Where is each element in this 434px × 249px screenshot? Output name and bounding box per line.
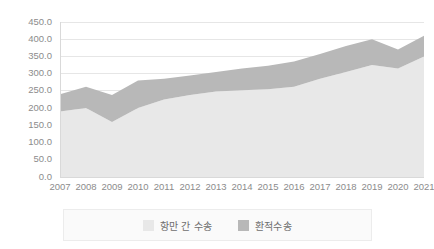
x-axis-tick-label: 2016 [283,181,304,192]
legend-item-0[interactable]: 항만 간 수송 [143,218,212,233]
y-axis-tick-label: 300.0 [28,67,52,78]
y-axis-tick-label: 250.0 [28,84,52,95]
x-axis-tick-label: 2019 [361,181,382,192]
y-axis-tick-label: 0.0 [39,171,52,182]
x-axis-tick-label: 2010 [127,181,148,192]
x-axis-tick-label: 2009 [101,181,122,192]
x-axis-tick-label: 2018 [335,181,356,192]
x-axis-tick-label: 2011 [154,181,174,192]
x-axis-tick-label: 2013 [205,181,226,192]
y-axis-tick-label: 450.0 [28,16,52,27]
y-axis-tick-label: 50.0 [34,153,53,164]
x-axis-tick-label: 2015 [257,181,278,192]
y-axis-tick-label: 400.0 [28,33,52,44]
legend-item-label: 환적수송 [255,218,292,233]
x-axis-tick-label: 2014 [231,181,252,192]
x-axis-tick-label: 2012 [179,181,200,192]
x-axis-tick-label: 2020 [387,181,408,192]
stacked-area-chart: 0.050.0100.0150.0200.0250.0300.0350.0400… [0,0,434,249]
y-axis-tick-label: 100.0 [28,136,52,147]
legend-swatch-icon [238,220,249,231]
chart-legend: 항만 간 수송 환적수송 [63,209,372,241]
legend-swatch-icon [143,220,154,231]
x-axis-tick-labels: 2007200820092010201120122013201420152016… [49,181,434,192]
x-axis-tick-label: 2008 [75,181,96,192]
x-axis-tick-label: 2021 [413,181,434,192]
legend-item-1[interactable]: 환적수송 [238,218,292,233]
y-axis-tick-label: 150.0 [28,119,52,130]
area-series-group [60,36,424,177]
legend-item-label: 항만 간 수송 [160,218,212,233]
y-axis-tick-label: 200.0 [28,102,52,113]
y-axis-tick-label: 350.0 [28,50,52,61]
x-axis-tick-label: 2007 [49,181,70,192]
y-axis-tick-labels: 0.050.0100.0150.0200.0250.0300.0350.0400… [28,16,52,182]
x-axis-tick-label: 2017 [309,181,330,192]
